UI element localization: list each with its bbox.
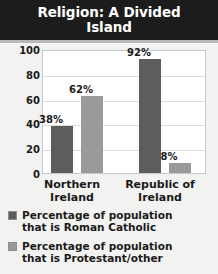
- legend-catholic-line-1: Percentage of population: [22, 209, 172, 221]
- category-republic-line-2: Ireland: [138, 191, 182, 204]
- y-tick-100: 100: [6, 46, 40, 56]
- legend-protestant-line-2: that is Protestant/other: [22, 252, 163, 264]
- chart-legend: Percentage of population that is Roman C…: [8, 209, 210, 271]
- chart-body: 100 80 60 40 20 0 38% 62% 92% 8% Norther…: [0, 43, 218, 274]
- gridline-60: [43, 101, 205, 102]
- legend-label-roman-catholic: Percentage of population that is Roman C…: [22, 209, 172, 233]
- legend-catholic-line-2: that is Roman Catholic: [22, 221, 156, 233]
- legend-item-protestant-other: Percentage of population that is Protest…: [8, 240, 210, 264]
- value-label-republic-protestant: 8%: [149, 151, 189, 162]
- y-tick-60: 60: [6, 96, 40, 106]
- value-label-northern-catholic: 38%: [31, 114, 71, 125]
- legend-swatch-protestant-other: [8, 242, 17, 251]
- page-title: Religion: A Divided Island: [37, 5, 180, 35]
- y-tick-20: 20: [6, 145, 40, 155]
- legend-swatch-roman-catholic: [8, 211, 17, 220]
- category-republic-line-1: Republic of: [125, 178, 195, 191]
- category-label-republic-of-ireland: Republic of Ireland: [117, 179, 203, 204]
- value-label-northern-protestant: 62%: [61, 84, 101, 95]
- legend-label-protestant-other: Percentage of population that is Protest…: [22, 240, 172, 264]
- bar-republic-of-ireland-protestant: [169, 163, 191, 173]
- legend-item-roman-catholic: Percentage of population that is Roman C…: [8, 209, 210, 233]
- legend-protestant-line-1: Percentage of population: [22, 240, 172, 252]
- chart-title-bar: Religion: A Divided Island: [0, 0, 218, 40]
- bar-northern-ireland-protestant: [81, 96, 103, 173]
- chart-figure: Religion: A Divided Island 100 80 60 40 …: [0, 0, 218, 274]
- category-label-northern-ireland: Northern Ireland: [29, 179, 115, 204]
- value-label-republic-catholic: 92%: [119, 47, 159, 58]
- title-line-2: Island: [86, 19, 131, 35]
- y-tick-80: 80: [6, 71, 40, 81]
- category-northern-line-2: Ireland: [50, 191, 94, 204]
- gridline-80: [43, 76, 205, 77]
- title-line-1: Religion: A Divided: [37, 4, 180, 20]
- bar-northern-ireland-catholic: [51, 126, 73, 173]
- category-northern-line-1: Northern: [44, 178, 100, 191]
